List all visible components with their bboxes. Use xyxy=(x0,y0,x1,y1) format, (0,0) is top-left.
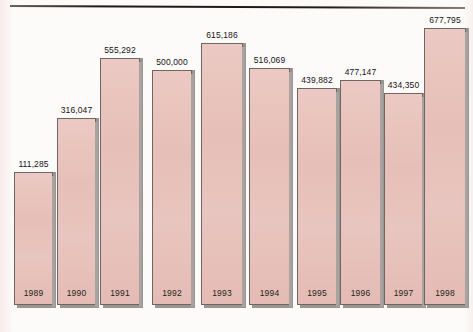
bar-1994[interactable]: 1994 xyxy=(249,68,290,305)
bar-group-1993: 1993615,186 xyxy=(201,43,243,305)
bar-1993[interactable]: 1993 xyxy=(201,43,243,305)
bar-1992[interactable]: 1992 xyxy=(152,70,192,305)
bar-value-label: 316,047 xyxy=(61,105,92,115)
bar-value-label: 477,147 xyxy=(345,67,376,77)
bar-1995[interactable]: 1995 xyxy=(297,88,337,305)
bar-value-label: 434,350 xyxy=(388,80,419,90)
bar-group-1998: 1998677,795 xyxy=(424,28,466,305)
bar-value-label: 111,285 xyxy=(18,159,48,169)
bar-year-label: 1994 xyxy=(250,288,289,298)
bar-year-label: 1989 xyxy=(15,288,52,298)
bar-year-label: 1990 xyxy=(58,288,95,298)
bar-value-label: 555,292 xyxy=(104,45,135,55)
bar-group-1994: 1994516,069 xyxy=(249,68,290,305)
bar-chart-plot-area: 1989111,2851990316,0471991555,2921992500… xyxy=(0,0,473,332)
bar-group-1991: 1991555,292 xyxy=(100,58,140,305)
bar-1996[interactable]: 1996 xyxy=(340,80,381,305)
bar-year-label: 1991 xyxy=(101,288,139,298)
bar-year-label: 1993 xyxy=(202,288,242,298)
bar-value-label: 516,069 xyxy=(254,55,285,65)
bar-1991[interactable]: 1991 xyxy=(100,58,140,305)
bar-year-label: 1992 xyxy=(153,288,191,298)
bar-year-label: 1995 xyxy=(298,288,336,298)
bar-value-label: 677,795 xyxy=(429,15,460,25)
bar-1997[interactable]: 1997 xyxy=(384,93,423,305)
bar-year-label: 1998 xyxy=(425,288,465,298)
bar-group-1996: 1996477,147 xyxy=(340,80,381,305)
bar-value-label: 500,000 xyxy=(156,57,187,67)
bar-value-label: 615,186 xyxy=(206,30,237,40)
bar-group-1990: 1990316,047 xyxy=(57,118,96,305)
bar-year-label: 1997 xyxy=(385,288,422,298)
bar-group-1989: 1989111,285 xyxy=(14,172,53,305)
bar-1990[interactable]: 1990 xyxy=(57,118,96,305)
bar-1998[interactable]: 1998 xyxy=(424,28,466,305)
bar-group-1997: 1997434,350 xyxy=(384,93,423,305)
bar-value-label: 439,882 xyxy=(301,75,332,85)
chart-page: 1989111,2851990316,0471991555,2921992500… xyxy=(0,0,473,332)
bar-group-1995: 1995439,882 xyxy=(297,88,337,305)
bar-year-label: 1996 xyxy=(341,288,380,298)
bar-1989[interactable]: 1989 xyxy=(14,172,53,305)
bar-group-1992: 1992500,000 xyxy=(152,70,192,305)
